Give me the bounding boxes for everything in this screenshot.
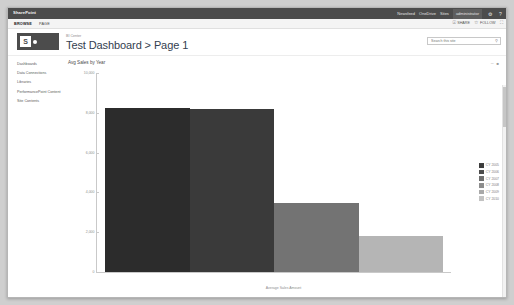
y-axis-tick: 2,000: [86, 230, 97, 234]
search-box[interactable]: ⚲: [427, 37, 501, 46]
suite-link-sites[interactable]: Sites: [440, 11, 449, 16]
legend-label: CY 2010: [486, 197, 499, 201]
share-label: SHARE: [457, 21, 470, 25]
sidebar-item-libraries[interactable]: Libraries: [17, 81, 64, 85]
suite-bar: SharePoint Newsfeed OneDrive Sites admin…: [8, 8, 506, 19]
help-icon[interactable]: ?: [497, 11, 504, 17]
chart-web-part: Avg Sales by Year ─ ■ 10,0008,0006,0004,…: [66, 60, 501, 295]
y-axis-tick: 10,000: [84, 71, 97, 75]
minimize-icon[interactable]: ─: [491, 61, 494, 66]
web-part-header: Avg Sales by Year ─ ■: [66, 60, 501, 69]
legend-item[interactable]: CY 2007: [479, 176, 499, 181]
chart-bar[interactable]: [274, 203, 359, 272]
legend-swatch: [479, 163, 484, 168]
legend-swatch: [479, 170, 484, 175]
legend-swatch: [479, 183, 484, 188]
logo-letter: S: [20, 36, 31, 47]
plot-area: 10,0008,0006,0004,0002,0000: [96, 73, 451, 273]
site-logo[interactable]: S: [17, 33, 59, 50]
search-icon[interactable]: ⚲: [492, 38, 500, 43]
web-part-tools: ─ ■: [491, 61, 499, 66]
logo-dot-icon: [33, 40, 37, 44]
suite-link-newsfeed[interactable]: Newsfeed: [397, 11, 415, 16]
sharepoint-brand[interactable]: SharePoint: [13, 10, 36, 15]
legend-swatch: [479, 190, 484, 195]
legend-item[interactable]: CY 2009: [479, 190, 499, 195]
quick-launch-nav: Dashboards Data Connections Libraries Pe…: [8, 56, 64, 109]
suite-link-onedrive[interactable]: OneDrive: [419, 11, 436, 16]
chart-bar[interactable]: [105, 108, 190, 272]
scrollbar-thumb[interactable]: [503, 87, 506, 127]
legend-item[interactable]: CY 2010: [479, 196, 499, 201]
ribbon-tabs: BROWSE PAGE: [14, 22, 50, 26]
page-body: Dashboards Data Connections Libraries Pe…: [8, 56, 506, 298]
sidebar-item-data-connections[interactable]: Data Connections: [17, 72, 64, 76]
legend-label: CY 2005: [486, 163, 499, 167]
sidebar-item-dashboards[interactable]: Dashboards: [17, 63, 64, 67]
follow-label: FOLLOW: [480, 21, 496, 25]
legend-item[interactable]: CY 2005: [479, 163, 499, 168]
y-axis-tick: 4,000: [86, 190, 97, 194]
page-header: S BI Center Test Dashboard > Page 1 ⚲: [8, 29, 506, 56]
search-input[interactable]: [428, 39, 492, 43]
sidebar-item-performancepoint-content[interactable]: PerformancePoint Content: [17, 91, 64, 95]
legend-swatch: [479, 176, 484, 181]
legend-label: CY 2006: [486, 170, 499, 174]
vertical-scrollbar[interactable]: [502, 85, 506, 298]
legend-item[interactable]: CY 2006: [479, 170, 499, 175]
chart-bar[interactable]: [190, 109, 275, 272]
y-axis-tick: 8,000: [86, 111, 97, 115]
sidebar-item-site-contents[interactable]: Site Contents: [17, 100, 64, 104]
follow-icon: ☆: [474, 21, 478, 26]
page-title: Test Dashboard > Page 1: [66, 39, 188, 51]
ribbon-actions: ☉ SHARE ☆ FOLLOW ⛶: [452, 21, 503, 26]
user-menu[interactable]: administrator: [453, 9, 482, 19]
ribbon-bar: BROWSE PAGE ☉ SHARE ☆ FOLLOW ⛶: [8, 19, 506, 29]
chart-area: 10,0008,0006,0004,0002,0000 Average Sale…: [66, 69, 501, 295]
legend-item[interactable]: CY 2008: [479, 183, 499, 188]
screenshot-root: SharePoint Newsfeed OneDrive Sites admin…: [0, 0, 514, 305]
browser-window: SharePoint Newsfeed OneDrive Sites admin…: [7, 7, 507, 298]
legend-label: CY 2009: [486, 190, 499, 194]
share-icon: ☉: [452, 21, 456, 26]
tab-browse[interactable]: BROWSE: [14, 22, 32, 26]
tab-page[interactable]: PAGE: [39, 22, 50, 26]
webpart-menu-icon[interactable]: ■: [497, 61, 499, 66]
chart-legend: CY 2005CY 2006CY 2007CY 2008CY 2009CY 20…: [479, 163, 499, 201]
x-axis-label: Average Sales Amount: [66, 286, 501, 290]
legend-label: CY 2007: [486, 177, 499, 181]
legend-label: CY 2008: [486, 183, 499, 187]
share-button[interactable]: ☉ SHARE: [452, 21, 470, 26]
follow-button[interactable]: ☆ FOLLOW: [474, 21, 495, 26]
suite-bar-right: Newsfeed OneDrive Sites administrator ⚙ …: [397, 8, 504, 19]
legend-swatch: [479, 196, 484, 201]
focus-on-content-icon[interactable]: ⛶: [500, 21, 503, 26]
bar-series: [97, 73, 451, 272]
y-axis-tick: 6,000: [86, 151, 97, 155]
gear-icon[interactable]: ⚙: [486, 11, 493, 17]
breadcrumb[interactable]: BI Center: [66, 34, 81, 38]
chart-title: Avg Sales by Year: [68, 60, 105, 65]
chart-bar[interactable]: [359, 236, 444, 272]
